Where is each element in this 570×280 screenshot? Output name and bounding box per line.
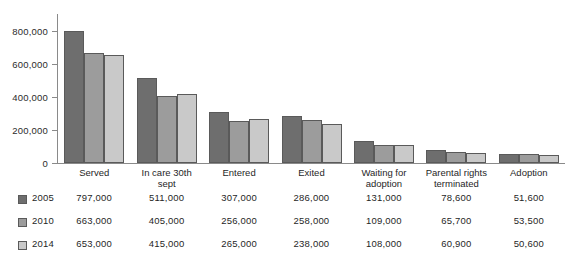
bar (322, 124, 342, 163)
bar (519, 154, 539, 163)
y-axis-tick (52, 31, 57, 32)
y-axis-tick (52, 64, 57, 65)
legend-row: 2014653,000415,000265,000238,000108,0006… (0, 238, 570, 261)
data-value-cell: 256,000 (203, 215, 275, 226)
bar (466, 153, 486, 163)
y-axis-tick (52, 163, 57, 164)
data-value-cell: 78,600 (420, 192, 492, 203)
y-axis-tick-label: 0 (0, 158, 48, 169)
bar-group (64, 14, 124, 163)
bar-group (209, 14, 269, 163)
bar (64, 31, 84, 163)
x-axis-line (57, 163, 565, 164)
x-axis-category-label: Adoption (493, 167, 565, 178)
bar (104, 55, 124, 163)
data-value-cell: 109,000 (348, 215, 420, 226)
x-axis-category-label: Parental rights terminated (420, 167, 492, 189)
legend-swatch (18, 195, 27, 204)
y-axis-tick-label: 800,000 (0, 25, 48, 36)
data-value-cell: 307,000 (203, 192, 275, 203)
data-value-cell: 415,000 (130, 238, 202, 249)
legend-series-label: 2005 (32, 192, 54, 203)
bar (426, 150, 446, 163)
data-value-cell: 51,600 (493, 192, 565, 203)
bar (354, 141, 374, 163)
bar (374, 145, 394, 163)
data-value-cell: 286,000 (275, 192, 347, 203)
bar (249, 119, 269, 163)
plot-area: 0200,000400,000600,000800,000 ServedIn c… (0, 0, 570, 170)
data-value-cell: 65,700 (420, 215, 492, 226)
x-axis-category-label: Exited (275, 167, 347, 178)
bar (229, 121, 249, 163)
data-value-cell: 50,600 (493, 238, 565, 249)
legend-swatch (18, 241, 27, 250)
bar (137, 78, 157, 163)
legend-series-label: 2010 (32, 215, 54, 226)
bar (84, 53, 104, 163)
data-value-cell: 653,000 (58, 238, 130, 249)
data-value-cell: 663,000 (58, 215, 130, 226)
legend-row: 2005797,000511,000307,000286,000131,0007… (0, 192, 570, 215)
y-axis-tick-label: 200,000 (0, 124, 48, 135)
bar (157, 96, 177, 163)
bar-group (499, 14, 559, 163)
bar (394, 145, 414, 163)
data-value-cell: 258,000 (275, 215, 347, 226)
y-axis-tick-label: 400,000 (0, 91, 48, 102)
bar (282, 116, 302, 163)
legend-row: 2010663,000405,000256,000258,000109,0006… (0, 215, 570, 238)
bar (499, 154, 519, 163)
bar (539, 155, 559, 163)
bar (302, 120, 322, 163)
bar-group (426, 14, 486, 163)
x-axis-category-label: Served (58, 167, 130, 178)
bar-groups (58, 14, 565, 163)
x-axis-category-label: Waiting for adoption (348, 167, 420, 189)
legend-series-label: 2014 (32, 238, 54, 249)
data-value-cell: 108,000 (348, 238, 420, 249)
bar-group (354, 14, 414, 163)
bar (177, 94, 197, 163)
legend-swatch (18, 218, 27, 227)
data-value-cell: 131,000 (348, 192, 420, 203)
data-value-cell: 53,500 (493, 215, 565, 226)
bar-group (282, 14, 342, 163)
x-axis-category-label: Entered (203, 167, 275, 178)
data-value-cell: 511,000 (130, 192, 202, 203)
bar (446, 152, 466, 163)
bar-group (137, 14, 197, 163)
y-axis-tick-label: 600,000 (0, 58, 48, 69)
data-value-cell: 238,000 (275, 238, 347, 249)
x-axis-category-label: In care 30th sept (130, 167, 202, 189)
bar (209, 112, 229, 163)
chart-figure: 0200,000400,000600,000800,000 ServedIn c… (0, 0, 570, 280)
y-axis-tick (52, 130, 57, 131)
y-axis-tick (52, 97, 57, 98)
data-value-cell: 60,900 (420, 238, 492, 249)
data-value-cell: 797,000 (58, 192, 130, 203)
data-value-cell: 405,000 (130, 215, 202, 226)
data-value-cell: 265,000 (203, 238, 275, 249)
